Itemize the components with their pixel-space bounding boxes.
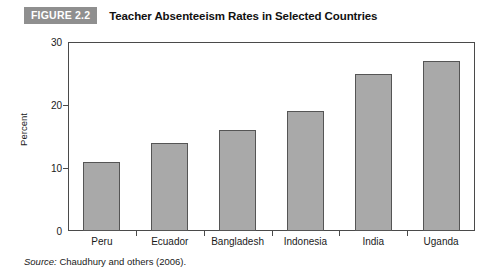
y-axis-tick-label: 10 xyxy=(51,163,62,174)
y-axis-tick-mark xyxy=(63,105,68,106)
y-axis-tick-label: 30 xyxy=(51,37,62,48)
y-axis-title: Percent xyxy=(18,95,29,165)
y-axis-tick-mark xyxy=(63,168,68,169)
bar-bangladesh xyxy=(219,130,256,231)
x-axis-tick-mark xyxy=(136,231,137,236)
x-axis-tick-mark xyxy=(407,231,408,236)
bar-india xyxy=(355,74,392,232)
bar-peru xyxy=(83,162,120,231)
x-axis-tick-mark xyxy=(204,231,205,236)
x-axis-tick-label: Peru xyxy=(91,236,112,247)
y-axis-tick-label: 0 xyxy=(56,226,62,237)
y-axis-tick-label: 20 xyxy=(51,100,62,111)
x-axis-tick-label: Uganda xyxy=(424,236,459,247)
bar-ecuador xyxy=(151,143,188,231)
y-axis-tick-labels: 0102030 xyxy=(40,0,62,276)
x-axis-tick-mark xyxy=(339,231,340,236)
source-note: Source: Chaudhury and others (2006). xyxy=(24,256,186,267)
source-text: Chaudhury and others (2006). xyxy=(57,256,186,267)
x-axis-tick-label: Ecuador xyxy=(151,236,188,247)
bar-chart: Percent 0102030 PeruEcuadorBangladeshInd… xyxy=(0,0,497,276)
plot-frame xyxy=(68,42,475,231)
x-axis-tick-label: Bangladesh xyxy=(211,236,264,247)
x-axis-tick-label: Indonesia xyxy=(284,236,327,247)
x-axis-tick-mark xyxy=(272,231,273,236)
source-label: Source: xyxy=(24,256,57,267)
x-axis-tick-label: India xyxy=(362,236,384,247)
bar-indonesia xyxy=(287,111,324,231)
bar-uganda xyxy=(423,61,460,231)
